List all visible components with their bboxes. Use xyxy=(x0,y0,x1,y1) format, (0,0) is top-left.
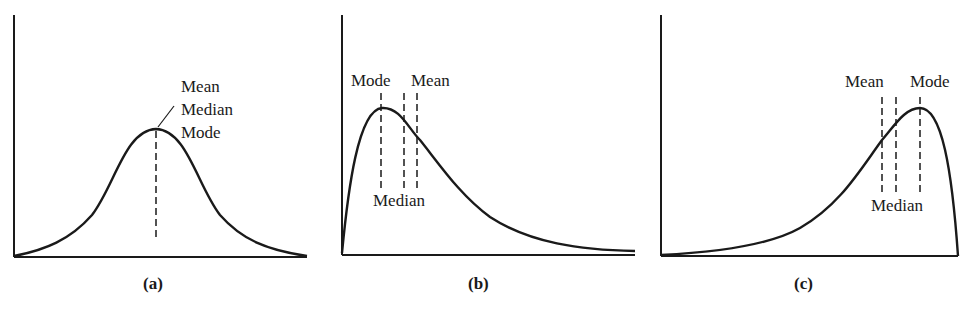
label-median: Median xyxy=(373,191,425,210)
label-mode: Mode xyxy=(181,123,221,142)
label-mean: Mean xyxy=(845,72,884,91)
caption-a: (a) xyxy=(143,274,163,293)
distribution-figure: Mean Median Mode (a) Mode Mean Median (b… xyxy=(0,0,967,319)
panel-c: Mean Mode Median (c) xyxy=(661,15,958,293)
label-mode: Mode xyxy=(351,71,391,90)
symmetric-curve xyxy=(14,129,307,256)
pointer-arrow xyxy=(158,106,174,127)
label-median: Median xyxy=(871,196,923,215)
label-median: Median xyxy=(181,100,233,119)
left-skewed-curve xyxy=(661,108,958,256)
right-skewed-curve xyxy=(342,108,635,253)
panel-a: Mean Median Mode (a) xyxy=(14,15,307,293)
caption-b: (b) xyxy=(468,274,489,293)
label-mode: Mode xyxy=(910,72,950,91)
caption-c: (c) xyxy=(794,274,813,293)
panel-b: Mode Mean Median (b) xyxy=(342,15,635,293)
label-mean: Mean xyxy=(411,71,450,90)
label-mean: Mean xyxy=(181,77,220,96)
